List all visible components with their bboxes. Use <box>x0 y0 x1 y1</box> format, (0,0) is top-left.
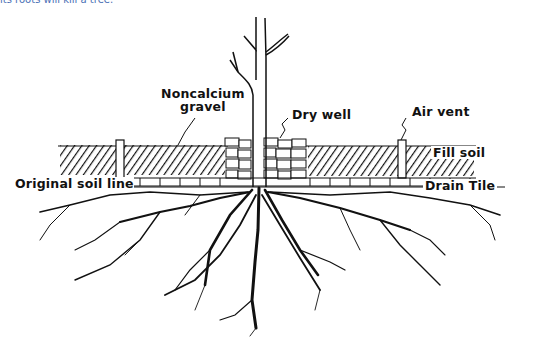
air-vent-pipe-right <box>398 140 406 178</box>
label-original-soil-line: Original soil line <box>15 177 134 190</box>
label-drain-tile: Drain Tile <box>423 179 497 192</box>
fill-soil-left <box>58 145 228 175</box>
tree-dry-well-diagram <box>0 0 551 342</box>
label-fill-soil: Fill soil <box>431 146 487 159</box>
tree-roots <box>40 188 500 336</box>
label-dry-well: Dry well <box>292 108 351 121</box>
label-noncalcium-gravel: Noncalcium gravel <box>161 87 245 113</box>
air-vent-pipe-left <box>116 140 124 178</box>
label-noncalcium-line2: gravel <box>161 100 245 113</box>
label-air-vent: Air vent <box>412 105 470 118</box>
